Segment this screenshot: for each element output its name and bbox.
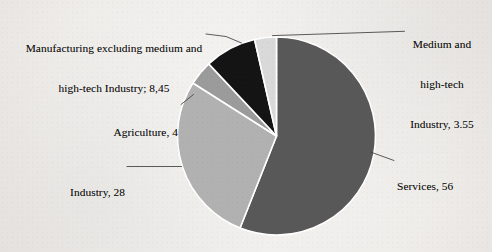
pie-chart-figure: Services, 56Industry, 28Agriculture, 4Ma… — [0, 0, 492, 252]
slice-label-agriculture-line1: Agriculture, 4 — [58, 126, 178, 139]
slice-label-manufacturing-line1: Manufacturing excluding medium and — [8, 42, 220, 55]
leader-line-medium-high-tech — [273, 31, 405, 35]
slice-label-services-line1: Services, 56 — [397, 180, 489, 193]
slice-label-industry: Industry, 28 — [22, 159, 125, 226]
slice-label-medium-high-tech-line3: Industry, 3.55 — [396, 118, 488, 131]
slice-label-medium-high-tech-line2: high-tech — [396, 78, 488, 91]
slice-label-medium-high-tech-line1: Medium and — [396, 38, 488, 51]
slice-label-medium-high-tech: Medium and high-tech Industry, 3.55 — [396, 11, 488, 158]
slice-label-industry-line1: Industry, 28 — [22, 186, 125, 199]
slice-label-manufacturing-line2: high-tech Industry; 8,45 — [8, 82, 220, 95]
slice-label-services: Services, 56 — [397, 153, 489, 220]
slice-label-agriculture: Agriculture, 4 — [58, 99, 178, 166]
